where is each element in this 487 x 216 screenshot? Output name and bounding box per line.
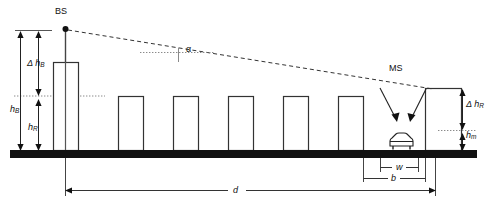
bs-antenna-dot xyxy=(63,26,69,32)
delta-h-b-arrowhead-top xyxy=(35,31,41,38)
h-sub-hr: R xyxy=(33,125,38,132)
h-sub-hm: m xyxy=(471,133,476,140)
ms-arrow-right-head xyxy=(408,113,416,122)
delta-h-b-arrowhead-bottom xyxy=(35,89,41,96)
scene-vector-layer xyxy=(0,0,487,216)
delta-glyph-hr: Δ xyxy=(466,99,472,109)
building-1 xyxy=(119,97,144,151)
building-2 xyxy=(174,97,199,151)
h-r-arrowhead-bottom xyxy=(35,144,41,151)
bs-label: BS xyxy=(55,6,67,16)
d-arrowhead-right xyxy=(429,187,436,193)
h-sub-delta-hb: B xyxy=(40,61,44,68)
w-label: w xyxy=(396,162,403,172)
building-3 xyxy=(229,97,254,151)
ground-bar xyxy=(10,150,477,158)
h-m-label: hm xyxy=(466,130,476,140)
car-icon xyxy=(390,133,413,150)
d-label: d xyxy=(233,185,238,195)
propagation-geometry-figure: BS MS α Δ hB hB hR Δ hR hm d w b xyxy=(0,0,487,216)
delta-glyph-hb: Δ xyxy=(27,58,33,68)
alpha-glyph: α xyxy=(186,44,191,54)
building-6-ms-side xyxy=(426,89,462,151)
h-b-arrowhead-bottom xyxy=(17,144,23,151)
d-arrowhead-left xyxy=(65,187,72,193)
building-4 xyxy=(284,97,309,151)
h-sub-delta-hr: R xyxy=(479,102,484,109)
h-r-arrowhead-top xyxy=(35,99,41,106)
ms-arrow-left-shaft xyxy=(380,88,395,117)
building-5 xyxy=(339,97,364,151)
delta-h-r-label: Δ hR xyxy=(466,99,484,109)
propagation-ray xyxy=(68,30,433,89)
ms-label: MS xyxy=(389,63,403,73)
delta-h-b-label: Δ hB xyxy=(27,58,45,68)
ms-arrow-left-head xyxy=(392,113,400,123)
h-r-label: hR xyxy=(28,122,38,132)
h-sub-hb: B xyxy=(15,107,19,114)
h-b-arrowhead-top xyxy=(17,31,23,38)
b-label: b xyxy=(391,173,396,183)
h-b-label: hB xyxy=(10,104,19,114)
alpha-label: α xyxy=(186,44,191,54)
ms-arrow-right-shaft xyxy=(412,89,426,117)
